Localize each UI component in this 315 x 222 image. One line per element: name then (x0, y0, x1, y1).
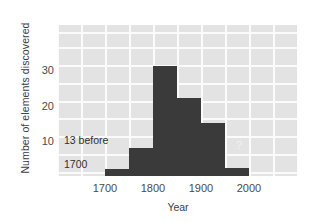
annotation-before-1700-line2: 1700 (64, 158, 87, 170)
gridline-horizontal (58, 65, 297, 67)
x-axis-label: Year (58, 201, 298, 213)
bar-1850-1900 (177, 98, 201, 176)
bar-1800-1850 (153, 66, 177, 176)
y-axis-tick-labels: 30 20 10 (18, 0, 54, 222)
plot-area (58, 25, 297, 176)
histogram-figure: Number of elements discovered 30 20 10 (0, 0, 315, 222)
annotation-question-mark: ? (236, 139, 242, 151)
x-tick-2000: 2000 (226, 182, 272, 194)
bar-1900-1950 (201, 123, 225, 176)
bar-1750-1800 (129, 148, 153, 176)
y-tick-20: 20 (24, 100, 54, 112)
gridline-horizontal (58, 32, 297, 34)
bar-1700-1750 (105, 169, 129, 176)
gridline-horizontal (58, 47, 297, 49)
y-tick-10: 10 (24, 135, 54, 147)
gridline-horizontal (58, 83, 297, 85)
x-tick-1900: 1900 (178, 182, 224, 194)
annotation-before-1700-line1: 13 before (64, 134, 108, 146)
y-tick-30: 30 (24, 64, 54, 76)
x-tick-1700: 1700 (82, 182, 128, 194)
x-tick-1800: 1800 (130, 182, 176, 194)
bar-1950-2000 (225, 168, 249, 176)
